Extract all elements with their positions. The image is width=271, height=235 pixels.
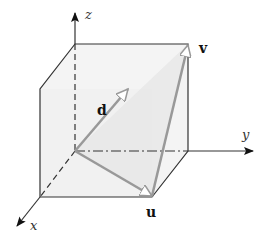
cube-vector-diagram: z y x d u v (0, 0, 271, 235)
z-axis-label: z (84, 7, 92, 22)
vector-u-label: u (146, 204, 156, 220)
vector-d-label: d (97, 102, 107, 118)
vector-v-label: v (198, 40, 208, 56)
x-axis-label: x (30, 218, 38, 233)
y-axis-label: y (241, 127, 250, 142)
